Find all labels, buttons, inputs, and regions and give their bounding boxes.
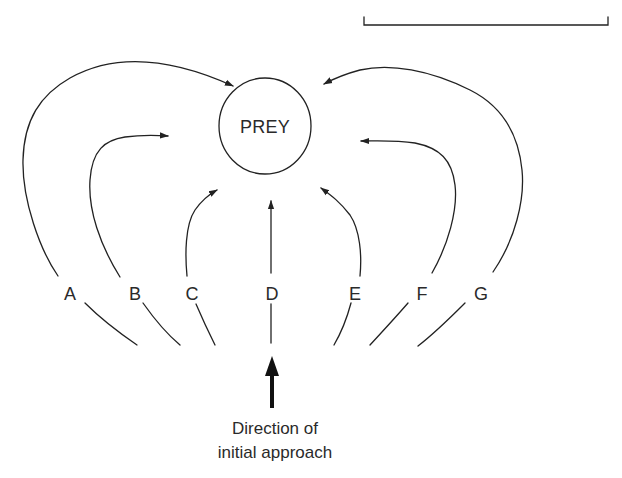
approach-caption: Direction of initial approach — [218, 419, 332, 462]
thick-up-arrow-icon — [265, 356, 279, 408]
path-label-f: F — [417, 284, 428, 304]
path-c: C — [186, 190, 218, 345]
path-label-a: A — [64, 284, 76, 304]
caption-line-2: initial approach — [218, 443, 332, 462]
path-label-b: B — [129, 284, 141, 304]
path-b: B — [90, 135, 180, 345]
prey-node: PREY — [219, 78, 311, 174]
prey-label: PREY — [240, 117, 290, 137]
path-f: F — [361, 141, 456, 345]
caption-line-1: Direction of — [232, 419, 318, 438]
approach-diagram: PREY A B C D E F G — [0, 0, 622, 478]
scale-bar — [364, 17, 608, 25]
path-label-d: D — [266, 284, 279, 304]
path-label-c: C — [186, 284, 199, 304]
path-label-e: E — [349, 284, 361, 304]
path-d: D — [266, 201, 279, 343]
path-g: G — [324, 67, 523, 346]
path-e: E — [321, 188, 361, 345]
path-a: A — [23, 62, 233, 345]
path-label-g: G — [474, 284, 488, 304]
